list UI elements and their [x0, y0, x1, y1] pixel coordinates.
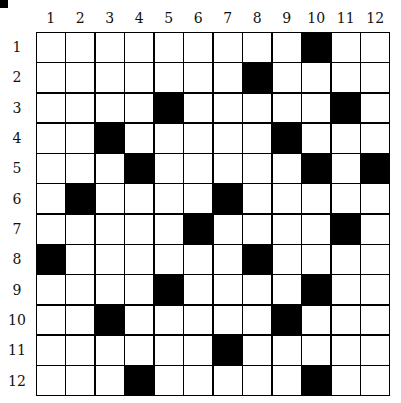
grid-cell-empty[interactable]: [214, 33, 242, 62]
grid-cell-empty[interactable]: [243, 366, 271, 395]
grid-cell-empty[interactable]: [302, 124, 330, 153]
grid-cell-empty[interactable]: [273, 184, 301, 213]
grid-cell-empty[interactable]: [96, 63, 124, 92]
grid-cell-empty[interactable]: [184, 33, 212, 62]
grid-cell-filled[interactable]: [155, 275, 183, 304]
grid-cell-empty[interactable]: [302, 336, 330, 365]
grid-cell-empty[interactable]: [96, 154, 124, 183]
grid-cell-empty[interactable]: [96, 275, 124, 304]
grid-cell-filled[interactable]: [214, 336, 242, 365]
grid-cell-empty[interactable]: [96, 336, 124, 365]
grid-cell-empty[interactable]: [37, 275, 65, 304]
grid-cell-empty[interactable]: [184, 184, 212, 213]
grid-cell-empty[interactable]: [273, 275, 301, 304]
grid-cell-empty[interactable]: [332, 245, 360, 274]
grid-cell-empty[interactable]: [243, 275, 271, 304]
grid-cell-empty[interactable]: [37, 184, 65, 213]
grid-cell-filled[interactable]: [302, 33, 330, 62]
grid-cell-empty[interactable]: [214, 275, 242, 304]
grid-cell-filled[interactable]: [332, 94, 360, 123]
grid-cell-filled[interactable]: [273, 124, 301, 153]
grid-cell-empty[interactable]: [66, 245, 94, 274]
grid-cell-empty[interactable]: [302, 94, 330, 123]
grid-cell-empty[interactable]: [214, 94, 242, 123]
grid-cell-empty[interactable]: [37, 63, 65, 92]
grid-cell-empty[interactable]: [214, 245, 242, 274]
grid-cell-filled[interactable]: [302, 154, 330, 183]
grid-cell-empty[interactable]: [361, 245, 389, 274]
grid-cell-empty[interactable]: [184, 336, 212, 365]
grid-cell-empty[interactable]: [184, 306, 212, 335]
grid-cell-empty[interactable]: [184, 124, 212, 153]
grid-cell-empty[interactable]: [243, 306, 271, 335]
grid-cell-empty[interactable]: [37, 366, 65, 395]
grid-cell-empty[interactable]: [155, 33, 183, 62]
grid-cell-empty[interactable]: [332, 124, 360, 153]
grid-cell-empty[interactable]: [361, 124, 389, 153]
grid-cell-empty[interactable]: [273, 33, 301, 62]
grid-cell-empty[interactable]: [214, 366, 242, 395]
grid-cell-empty[interactable]: [125, 94, 153, 123]
grid-cell-empty[interactable]: [66, 336, 94, 365]
grid-cell-empty[interactable]: [37, 33, 65, 62]
grid-cell-empty[interactable]: [125, 306, 153, 335]
grid-cell-empty[interactable]: [361, 366, 389, 395]
grid-cell-filled[interactable]: [243, 63, 271, 92]
grid-cell-filled[interactable]: [66, 184, 94, 213]
grid-cell-empty[interactable]: [96, 184, 124, 213]
grid-cell-empty[interactable]: [243, 124, 271, 153]
grid-cell-empty[interactable]: [332, 33, 360, 62]
grid-cell-empty[interactable]: [273, 336, 301, 365]
grid-cell-filled[interactable]: [184, 215, 212, 244]
grid-cell-filled[interactable]: [125, 366, 153, 395]
grid-cell-empty[interactable]: [361, 33, 389, 62]
grid-cell-filled[interactable]: [273, 306, 301, 335]
grid-cell-empty[interactable]: [37, 215, 65, 244]
grid-cell-filled[interactable]: [96, 124, 124, 153]
grid-cell-empty[interactable]: [155, 215, 183, 244]
grid-cell-filled[interactable]: [302, 275, 330, 304]
grid-cell-filled[interactable]: [96, 306, 124, 335]
grid-cell-empty[interactable]: [361, 306, 389, 335]
grid-cell-empty[interactable]: [214, 306, 242, 335]
grid-cell-empty[interactable]: [332, 336, 360, 365]
grid-cell-empty[interactable]: [96, 245, 124, 274]
grid-cell-empty[interactable]: [66, 306, 94, 335]
grid-cell-empty[interactable]: [273, 63, 301, 92]
grid-cell-filled[interactable]: [243, 245, 271, 274]
grid-cell-empty[interactable]: [96, 215, 124, 244]
grid-cell-empty[interactable]: [96, 33, 124, 62]
grid-cell-empty[interactable]: [125, 184, 153, 213]
grid-cell-empty[interactable]: [243, 215, 271, 244]
grid-cell-filled[interactable]: [37, 245, 65, 274]
grid-cell-empty[interactable]: [361, 215, 389, 244]
grid-cell-empty[interactable]: [243, 184, 271, 213]
grid-cell-empty[interactable]: [361, 275, 389, 304]
grid-cell-empty[interactable]: [184, 366, 212, 395]
grid-cell-empty[interactable]: [243, 154, 271, 183]
grid-cell-empty[interactable]: [37, 306, 65, 335]
grid-cell-filled[interactable]: [302, 366, 330, 395]
grid-cell-empty[interactable]: [125, 215, 153, 244]
grid-cell-empty[interactable]: [125, 275, 153, 304]
grid-cell-empty[interactable]: [155, 63, 183, 92]
grid-cell-empty[interactable]: [332, 154, 360, 183]
grid-cell-empty[interactable]: [125, 33, 153, 62]
grid-cell-empty[interactable]: [332, 366, 360, 395]
grid-cell-empty[interactable]: [66, 94, 94, 123]
grid-cell-empty[interactable]: [273, 215, 301, 244]
grid-cell-empty[interactable]: [184, 94, 212, 123]
grid-cell-empty[interactable]: [361, 336, 389, 365]
grid-cell-empty[interactable]: [96, 366, 124, 395]
grid-cell-empty[interactable]: [96, 94, 124, 123]
grid-cell-empty[interactable]: [155, 184, 183, 213]
grid-cell-empty[interactable]: [361, 184, 389, 213]
grid-cell-empty[interactable]: [332, 184, 360, 213]
grid-cell-empty[interactable]: [125, 63, 153, 92]
grid-cell-empty[interactable]: [273, 245, 301, 274]
grid-cell-empty[interactable]: [214, 124, 242, 153]
grid-cell-filled[interactable]: [125, 154, 153, 183]
grid-cell-empty[interactable]: [332, 63, 360, 92]
grid-cell-empty[interactable]: [155, 306, 183, 335]
grid-cell-empty[interactable]: [125, 124, 153, 153]
